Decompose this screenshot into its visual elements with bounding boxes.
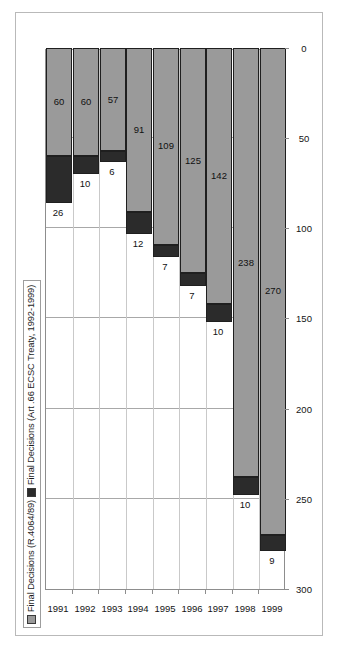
- chart-frame: Final Decisions (R.4064/89) Final Decisi…: [15, 12, 323, 636]
- bar-1991[interactable]: 60: [46, 48, 72, 203]
- bar-segment-merger-1992[interactable]: 60: [73, 48, 99, 156]
- value-axis-tick-label: 50: [291, 134, 317, 144]
- bar-segment-ecsc-1992[interactable]: [73, 156, 99, 174]
- bar-1998[interactable]: 238: [233, 48, 259, 495]
- bar-value-label-ecsc-1991: 26: [47, 208, 69, 218]
- bar-value-label-ecsc-1993: 6: [101, 167, 123, 177]
- chart-canvas: Final Decisions (R.4064/89) Final Decisi…: [17, 15, 323, 635]
- bar-1996[interactable]: 125: [180, 48, 206, 286]
- axis-tick-mark: [285, 228, 289, 229]
- value-axis-tick-label: 150: [291, 315, 317, 325]
- bar-value-label-ecsc-1994: 12: [127, 239, 149, 249]
- bar-segment-ecsc-1993[interactable]: [100, 151, 126, 162]
- bar-value-label-merger-1999: 270: [265, 286, 281, 296]
- bar-segment-merger-1991[interactable]: 60: [46, 48, 72, 156]
- black-square-icon: [27, 488, 36, 497]
- bar-1992[interactable]: 60: [73, 48, 99, 174]
- bar-value-label-ecsc-1998: 10: [234, 500, 256, 510]
- bar-value-label-ecsc-1996: 7: [181, 291, 203, 301]
- category-axis-tick-label: 1998: [230, 604, 260, 614]
- bar-segment-ecsc-1996[interactable]: [180, 273, 206, 286]
- category-tick-mark: [72, 590, 73, 594]
- category-tick-mark: [125, 590, 126, 594]
- bar-segment-ecsc-1997[interactable]: [206, 304, 232, 322]
- value-axis-tick-label: 300: [291, 585, 317, 595]
- value-axis-tick-label: 200: [291, 405, 317, 415]
- category-tick-mark: [205, 590, 206, 594]
- bar-segment-merger-1994[interactable]: 91: [126, 48, 152, 212]
- axis-tick-mark: [285, 589, 289, 590]
- axis-tick-mark: [285, 138, 289, 139]
- bar-value-label-merger-1992: 60: [81, 97, 92, 107]
- axis-tick-mark: [285, 409, 289, 410]
- bar-segment-merger-1993[interactable]: 57: [100, 48, 126, 151]
- bar-value-label-ecsc-1999: 9: [261, 556, 283, 566]
- bar-value-label-ecsc-1997: 10: [207, 327, 229, 337]
- bar-value-label-merger-1993: 57: [107, 94, 118, 104]
- category-axis-tick-label: 1995: [150, 604, 180, 614]
- category-axis-tick-label: 1992: [70, 604, 100, 614]
- category-axis-tick-label: 1999: [257, 604, 287, 614]
- bar-value-label-merger-1997: 142: [211, 171, 227, 181]
- bar-segment-ecsc-1995[interactable]: [153, 245, 179, 258]
- category-tick-mark: [258, 590, 259, 594]
- legend-label-final-decisions-merger: Final Decisions (R.4064/89): [26, 500, 37, 612]
- category-axis-tick-label: 1994: [123, 604, 153, 614]
- bar-1993[interactable]: 57: [100, 48, 126, 162]
- bar-value-label-ecsc-1992: 10: [74, 179, 96, 189]
- bar-segment-ecsc-1998[interactable]: [233, 477, 259, 495]
- axis-tick-mark: [285, 48, 289, 49]
- bar-1994[interactable]: 91: [126, 48, 152, 234]
- category-tick-mark: [178, 590, 179, 594]
- axis-tick-mark: [285, 319, 289, 320]
- value-axis-tick-label: 0: [291, 44, 317, 54]
- bar-segment-merger-1995[interactable]: 109: [153, 48, 179, 245]
- bar-segment-ecsc-1994[interactable]: [126, 212, 152, 234]
- bar-segment-merger-1996[interactable]: 125: [180, 48, 206, 273]
- grey-square-icon: [27, 615, 36, 624]
- legend-label-final-decisions-ecsc: Final Decisions (Art .66 ECSC Treaty, 19…: [26, 285, 37, 485]
- bar-value-label-merger-1996: 125: [185, 156, 201, 166]
- category-tick-mark: [152, 590, 153, 594]
- bar-value-label-merger-1991: 60: [54, 97, 65, 107]
- bar-segment-ecsc-1999[interactable]: [260, 535, 286, 551]
- category-axis-tick-label: 1997: [203, 604, 233, 614]
- bar-1999[interactable]: 270: [260, 48, 286, 551]
- axis-tick-mark: [285, 499, 289, 500]
- value-axis-tick-label: 100: [291, 224, 317, 234]
- bar-value-label-merger-1998: 238: [238, 258, 254, 268]
- bar-segment-merger-1998[interactable]: 238: [233, 48, 259, 477]
- bar-segment-merger-1997[interactable]: 142: [206, 48, 232, 304]
- bar-segment-ecsc-1991[interactable]: [46, 156, 72, 203]
- category-tick-mark: [232, 590, 233, 594]
- bar-1997[interactable]: 142: [206, 48, 232, 322]
- bar-1995[interactable]: 109: [153, 48, 179, 257]
- chart-legend: Final Decisions (R.4064/89) Final Decisi…: [23, 280, 41, 628]
- value-axis-tick-label: 250: [291, 495, 317, 505]
- category-axis-tick-label: 1991: [43, 604, 73, 614]
- category-tick-mark: [98, 590, 99, 594]
- bar-value-label-merger-1994: 91: [134, 125, 145, 135]
- bar-value-label-ecsc-1995: 7: [154, 262, 176, 272]
- bar-value-label-merger-1995: 109: [158, 141, 174, 151]
- chart-rotation-wrapper: Final Decisions (R.4064/89) Final Decisi…: [16, 13, 324, 637]
- bar-segment-merger-1999[interactable]: 270: [260, 48, 286, 535]
